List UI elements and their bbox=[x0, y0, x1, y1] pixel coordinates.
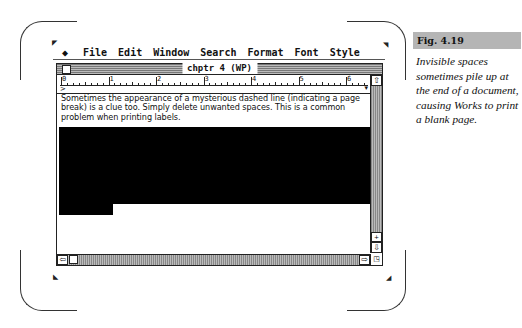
ruler-tick bbox=[215, 83, 216, 85]
caption-text: Invisible spaces sometimes pile up at th… bbox=[413, 54, 521, 127]
ruler-tick bbox=[91, 83, 92, 85]
ruler-tick bbox=[239, 83, 240, 85]
ruler-number: 1 bbox=[109, 75, 114, 83]
text-line: problem when printing labels. bbox=[61, 113, 369, 122]
selected-blank-spaces-tail[interactable] bbox=[59, 204, 113, 215]
ruler-tick bbox=[180, 82, 181, 85]
ruler-tick bbox=[114, 83, 115, 85]
ruler-tick bbox=[310, 83, 311, 85]
ruler-tick bbox=[79, 83, 80, 85]
document-body[interactable]: Sometimes the appearance of a mysterious… bbox=[61, 94, 369, 122]
scroll-down-arrow-icon[interactable]: ⇩ bbox=[371, 242, 382, 253]
document-window: chptr 4 (WP) > ▾ 0123456 Sometimes the a… bbox=[56, 63, 383, 266]
ruler-tick bbox=[287, 83, 288, 85]
figure-caption: Fig. 4.19 Invisible spaces sometimes pil… bbox=[413, 32, 521, 127]
menu-font[interactable]: Font bbox=[295, 47, 319, 58]
crop-mark-top-right: ◥ bbox=[383, 42, 388, 49]
ruler-tick bbox=[233, 83, 234, 85]
ruler-number: 0 bbox=[61, 75, 66, 83]
horizontal-scroll-thumb[interactable] bbox=[69, 255, 78, 264]
ruler-tick bbox=[192, 83, 193, 85]
ruler-tick bbox=[174, 83, 175, 85]
horizontal-scrollbar[interactable]: ⇦ ⇨ ◳ bbox=[57, 254, 382, 265]
apple-menu-icon[interactable]: ◆ bbox=[62, 47, 72, 58]
ruler-tick bbox=[340, 83, 341, 85]
ruler-number: 6 bbox=[346, 75, 351, 83]
close-box[interactable] bbox=[62, 65, 71, 74]
ruler-tick bbox=[162, 83, 163, 85]
ruler-tick bbox=[293, 83, 294, 85]
ruler-tick bbox=[328, 83, 329, 85]
ruler-tick bbox=[316, 83, 317, 85]
menu-edit[interactable]: Edit bbox=[118, 47, 142, 58]
ruler-tick bbox=[138, 83, 139, 85]
menu-style[interactable]: Style bbox=[330, 47, 360, 58]
ruler-number: 5 bbox=[299, 75, 304, 83]
ruler-tick bbox=[227, 82, 228, 85]
ruler-tick bbox=[168, 83, 169, 85]
ruler-tick bbox=[150, 83, 151, 85]
title-bar[interactable]: chptr 4 (WP) bbox=[57, 64, 382, 75]
ruler-tick bbox=[281, 83, 282, 85]
ruler-tick bbox=[209, 83, 210, 85]
menu-search[interactable]: Search bbox=[200, 47, 236, 58]
menu-format[interactable]: Format bbox=[247, 47, 283, 58]
ruler-tick bbox=[67, 83, 68, 85]
ruler-tick bbox=[352, 83, 353, 85]
ruler-tick bbox=[73, 83, 74, 85]
ruler-tick bbox=[275, 82, 276, 85]
menu-file[interactable]: File bbox=[83, 47, 107, 58]
ruler-tick bbox=[120, 83, 121, 85]
ruler-tick bbox=[144, 83, 145, 85]
scroll-up-arrow-icon[interactable]: ⇧ bbox=[371, 75, 382, 86]
ruler-tick bbox=[304, 83, 305, 85]
figure-label: Fig. 4.19 bbox=[413, 32, 521, 49]
ruler-tick bbox=[358, 83, 359, 85]
window-title: chptr 4 (WP) bbox=[182, 63, 257, 74]
scroll-right-arrow-icon[interactable]: ⇨ bbox=[359, 255, 370, 265]
ruler-tick bbox=[132, 82, 133, 85]
selected-blank-spaces[interactable] bbox=[59, 127, 370, 204]
ruler-number: 3 bbox=[204, 75, 209, 83]
menubar: ◆ File Edit Window Search Format Font St… bbox=[62, 45, 360, 59]
ruler-tick bbox=[245, 83, 246, 85]
right-margin-marker[interactable]: ▾ bbox=[364, 85, 368, 92]
ruler-tick bbox=[263, 83, 264, 85]
scroll-left-arrow-icon[interactable]: ⇦ bbox=[57, 255, 68, 265]
ruler-tick bbox=[186, 83, 187, 85]
ruler-tick bbox=[103, 83, 104, 85]
ruler-tick bbox=[97, 83, 98, 85]
ruler-tick bbox=[257, 83, 258, 85]
vertical-scrollbar[interactable]: ⇧ + ⇩ bbox=[370, 75, 382, 253]
crop-mark-top-left: ◤ bbox=[52, 40, 57, 47]
ruler[interactable]: > ▾ 0123456 bbox=[57, 75, 370, 94]
left-indent-marker[interactable]: > bbox=[60, 86, 66, 93]
size-box-icon[interactable]: ◳ bbox=[370, 254, 382, 265]
ruler-tick bbox=[322, 82, 323, 85]
ruler-tick bbox=[198, 83, 199, 85]
ruler-tick bbox=[221, 83, 222, 85]
ruler-tick bbox=[126, 83, 127, 85]
split-pane-icon[interactable]: + bbox=[371, 232, 382, 242]
crop-mark-bottom-left: ◣ bbox=[53, 274, 58, 281]
ruler-tick bbox=[334, 83, 335, 85]
crop-mark-bottom-right: ◢ bbox=[386, 275, 391, 282]
ruler-tick bbox=[269, 83, 270, 85]
menu-window[interactable]: Window bbox=[153, 47, 189, 58]
ruler-tick bbox=[364, 83, 365, 85]
ruler-tick bbox=[85, 82, 86, 85]
ruler-baseline bbox=[60, 85, 368, 86]
ruler-number: 2 bbox=[156, 75, 161, 83]
ruler-number: 4 bbox=[251, 75, 256, 83]
